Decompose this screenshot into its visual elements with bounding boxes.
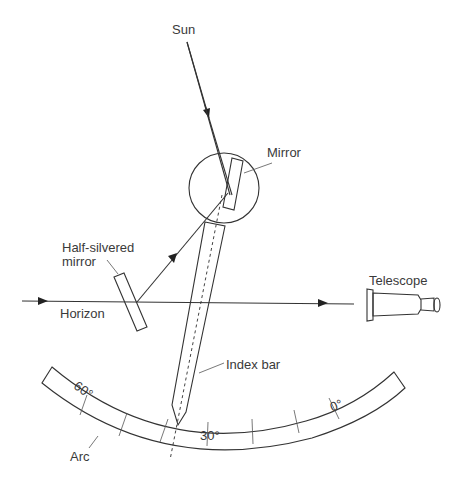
horizon-label: Horizon bbox=[60, 306, 105, 321]
scale-mark-0: 0° bbox=[328, 396, 345, 414]
mirror-label: Mirror bbox=[267, 145, 302, 160]
scale-mark-60: 60° bbox=[71, 378, 96, 402]
half-silvered-mirror-label-1: Half-silvered bbox=[62, 240, 134, 255]
index-bar bbox=[170, 195, 225, 460]
sun-label: Sun bbox=[172, 22, 195, 37]
telescope-icon bbox=[367, 289, 440, 321]
pivot-circle bbox=[189, 153, 259, 223]
index-bar-label: Index bar bbox=[226, 357, 281, 372]
sun-ray bbox=[187, 42, 232, 195]
telescope-label: Telescope bbox=[369, 273, 428, 288]
half-silvered-mirror-label-2: mirror bbox=[62, 254, 97, 269]
scale-mark-30: 30° bbox=[200, 428, 220, 443]
index-mirror bbox=[223, 158, 272, 210]
sextant-diagram: Sun Mirror Index bar Horizon Half-silver… bbox=[0, 0, 466, 483]
reflected-ray-arrow bbox=[168, 253, 177, 263]
arc-label: Arc bbox=[70, 449, 90, 464]
